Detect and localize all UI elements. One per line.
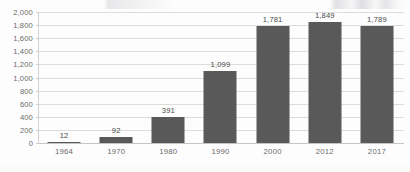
- bar[interactable]: [152, 117, 185, 143]
- y-axis-tick-label: 200: [20, 125, 33, 134]
- bar[interactable]: [100, 137, 133, 143]
- x-axis-tick-label: 2000: [264, 147, 282, 156]
- bar-value-label: 1,781: [263, 15, 283, 24]
- bar-value-label: 1,849: [315, 11, 335, 20]
- bar[interactable]: [308, 22, 341, 143]
- y-axis-tick-label: 800: [20, 86, 33, 95]
- y-axis-tick-label: 1,200: [13, 60, 33, 69]
- bar-chart: 2,0001,8001,6001,4001,2001,0008006004002…: [0, 0, 410, 172]
- y-axis-tick-label: 2,000: [13, 8, 33, 17]
- bars-layer: 12923911,0991,7811,8491,789: [38, 12, 403, 143]
- bar-slot: 92: [90, 12, 142, 143]
- x-axis-tick-label: 2012: [316, 147, 334, 156]
- x-axis-tick-label: 1970: [107, 147, 125, 156]
- bar-slot: 1,781: [247, 12, 299, 143]
- y-axis-tick-mark: [36, 143, 39, 144]
- bar[interactable]: [256, 26, 289, 143]
- x-axis-tick-label: 1964: [55, 147, 73, 156]
- y-axis-tick-label: 600: [20, 99, 33, 108]
- bar[interactable]: [204, 71, 237, 143]
- bar-value-label: 12: [60, 131, 69, 140]
- chart-plot-wrapper: 2,0001,8001,6001,4001,2001,0008006004002…: [0, 0, 410, 172]
- y-axis-tick-labels: 2,0001,8001,6001,4001,2001,0008006004002…: [0, 12, 33, 143]
- y-axis-tick-label: 1,400: [13, 47, 33, 56]
- bar-value-label: 391: [162, 106, 175, 115]
- y-axis-tick-label: 400: [20, 112, 33, 121]
- x-axis-tick-labels: 1964197019801990200020122017: [38, 147, 403, 161]
- bar-slot: 12: [38, 12, 90, 143]
- bar[interactable]: [48, 142, 81, 143]
- y-axis-tick-label: 1,600: [13, 34, 33, 43]
- bar-value-label: 1,789: [367, 15, 387, 24]
- bar[interactable]: [360, 26, 393, 143]
- y-axis-tick-label: 1,000: [13, 73, 33, 82]
- bar-value-label: 1,099: [211, 60, 231, 69]
- y-axis-tick-label: 0: [29, 139, 33, 148]
- bar-slot: 1,849: [299, 12, 351, 143]
- x-axis-tick-label: 2017: [368, 147, 386, 156]
- bar-slot: 1,099: [194, 12, 246, 143]
- x-axis-tick-label: 1980: [159, 147, 177, 156]
- bar-slot: 1,789: [351, 12, 403, 143]
- gridline: [39, 143, 404, 144]
- bar-value-label: 92: [112, 126, 121, 135]
- bar-slot: 391: [142, 12, 194, 143]
- y-axis-tick-label: 1,800: [13, 21, 33, 30]
- x-axis-tick-label: 1990: [211, 147, 229, 156]
